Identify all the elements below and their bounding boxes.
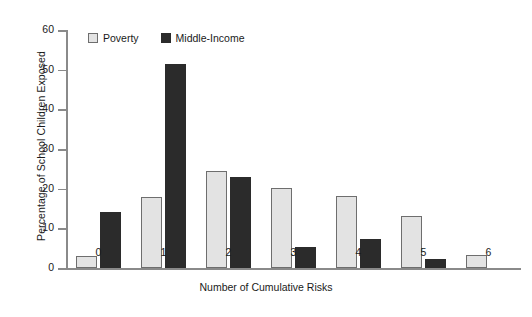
x-axis-tick-label: 3 bbox=[274, 246, 314, 258]
y-axis-tick-label: 0 bbox=[48, 261, 54, 273]
x-axis-tick-label: 1 bbox=[144, 246, 184, 258]
bar-chart: Percentage of School Children Exposed Po… bbox=[0, 0, 532, 317]
y-axis-tick: 0 bbox=[58, 268, 66, 270]
bar-group bbox=[401, 30, 446, 268]
x-axis-tick-label: 0 bbox=[79, 246, 119, 258]
y-axis-tick: 60 bbox=[58, 30, 66, 32]
y-axis-tick-label: 20 bbox=[42, 182, 54, 194]
y-axis-tick: 40 bbox=[58, 109, 66, 111]
y-axis-line bbox=[66, 30, 68, 268]
x-axis-tick-label: 6 bbox=[469, 246, 509, 258]
bar-group bbox=[206, 30, 251, 268]
x-axis-line bbox=[66, 268, 521, 270]
x-axis-tick-label: 5 bbox=[404, 246, 444, 258]
y-axis-tick-label: 10 bbox=[42, 221, 54, 233]
x-axis-title: Number of Cumulative Risks bbox=[0, 281, 532, 293]
bar-group bbox=[271, 30, 316, 268]
bar-group bbox=[466, 30, 511, 268]
y-axis-tick: 50 bbox=[58, 70, 66, 72]
bar-middle-income bbox=[100, 212, 121, 268]
y-axis-tick: 10 bbox=[58, 228, 66, 230]
bar-middle-income bbox=[165, 64, 186, 268]
x-axis-tick-label: 4 bbox=[339, 246, 379, 258]
bar-poverty bbox=[401, 216, 422, 268]
bar-group bbox=[76, 30, 121, 268]
y-axis-tick-label: 30 bbox=[42, 142, 54, 154]
bar-group bbox=[141, 30, 186, 268]
y-axis-tick-label: 40 bbox=[42, 102, 54, 114]
plot-area: 0102030405060 bbox=[66, 30, 521, 268]
bar-middle-income bbox=[425, 259, 446, 268]
bar-group bbox=[336, 30, 381, 268]
y-axis-tick-label: 60 bbox=[42, 23, 54, 35]
y-axis-tick: 20 bbox=[58, 189, 66, 191]
x-axis-tick-label: 2 bbox=[209, 246, 249, 258]
y-axis-tick: 30 bbox=[58, 149, 66, 151]
y-axis-tick-label: 50 bbox=[42, 63, 54, 75]
